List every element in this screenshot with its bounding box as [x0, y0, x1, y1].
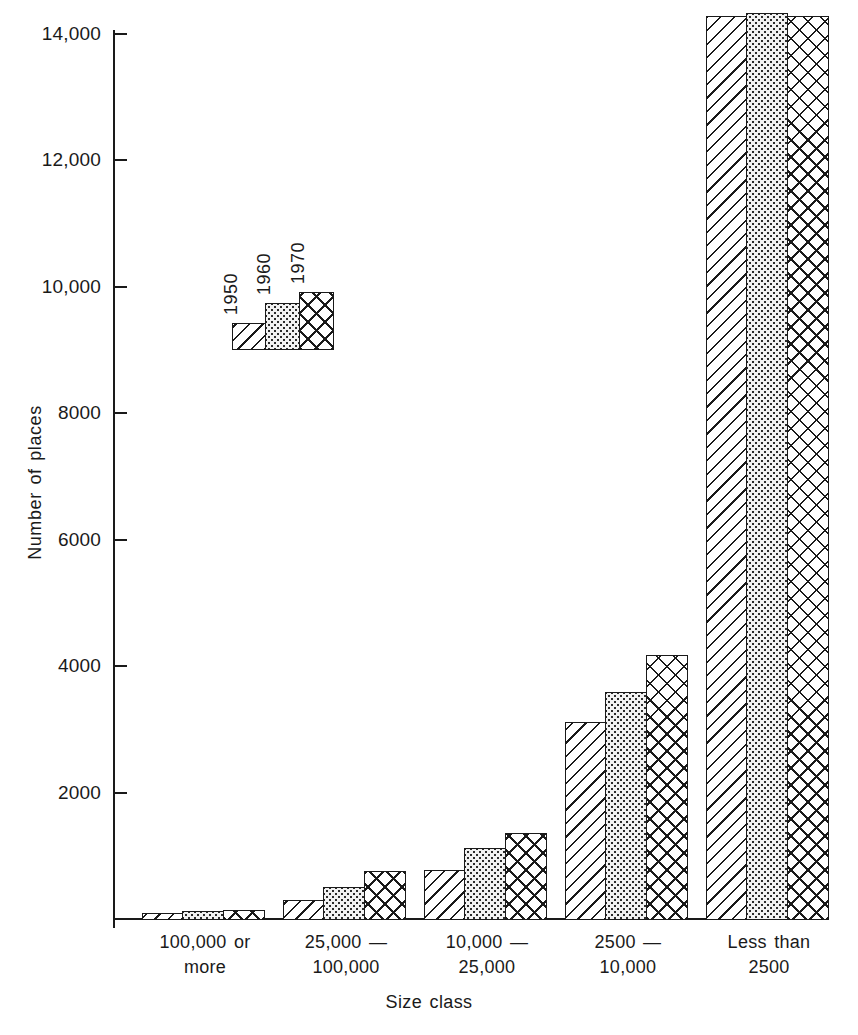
bar-group-1	[142, 910, 265, 920]
bar-1970-group-3[interactable]	[505, 833, 547, 920]
legend-swatches	[232, 292, 334, 350]
y-axis-tick-labels: 200040006000800010,00012,00014,000	[0, 0, 101, 960]
x-category-label-line1: 10,000 —	[446, 932, 528, 952]
bar-1950-group-3[interactable]	[424, 870, 466, 920]
bar-1970-group-2[interactable]	[364, 871, 406, 920]
bar-group-5	[706, 13, 829, 920]
legend-swatch-1960[interactable]	[265, 303, 300, 350]
bar-1970-group-5[interactable]	[787, 16, 829, 920]
y-tick-label-12000: 12,000	[42, 149, 101, 171]
y-tick-label-6000: 6000	[58, 529, 101, 551]
legend: 195019601970	[232, 255, 372, 350]
x-category-label-line1: 100,000 or	[159, 932, 250, 952]
bar-group-2	[283, 871, 406, 920]
legend-swatch-1950[interactable]	[232, 323, 267, 350]
y-tick-label-8000: 8000	[58, 402, 101, 424]
y-tick-label-2000: 2000	[58, 782, 101, 804]
legend-swatch-1970[interactable]	[299, 292, 334, 350]
bar-1950-group-1[interactable]	[142, 913, 184, 920]
bar-group-4	[565, 655, 688, 921]
x-category-label-line1: 2500 —	[595, 932, 662, 952]
plot-area	[115, 8, 824, 920]
bar-1960-group-5[interactable]	[746, 13, 788, 920]
x-category-label-5: Less than2500	[679, 930, 858, 980]
x-category-label-line1: 25,000 —	[305, 932, 387, 952]
x-category-label-line2: 2500	[679, 955, 858, 980]
y-tick-label-4000: 4000	[58, 655, 101, 677]
x-axis-title: Size class	[0, 992, 858, 1013]
y-tick-label-14000: 14,000	[42, 23, 101, 45]
bar-1950-group-5[interactable]	[706, 16, 748, 920]
bar-1960-group-1[interactable]	[182, 911, 224, 920]
bar-chart-figure: 200040006000800010,00012,00014,000 Numbe…	[0, 0, 858, 1035]
bar-1970-group-4[interactable]	[646, 655, 688, 921]
bar-1950-group-4[interactable]	[565, 722, 607, 920]
bar-1960-group-4[interactable]	[605, 692, 647, 920]
bar-1960-group-2[interactable]	[323, 887, 365, 920]
legend-label-1970: 1970	[288, 242, 309, 284]
legend-label-1950: 1950	[221, 273, 242, 315]
y-axis-title: Number of places	[25, 388, 46, 578]
x-category-label-line1: Less than	[728, 932, 811, 952]
bar-1950-group-2[interactable]	[283, 900, 325, 920]
legend-label-1960: 1960	[254, 253, 275, 295]
bar-1970-group-1[interactable]	[223, 910, 265, 920]
bar-group-3	[424, 833, 547, 920]
bar-1960-group-3[interactable]	[464, 848, 506, 920]
y-tick-label-10000: 10,000	[42, 276, 101, 298]
